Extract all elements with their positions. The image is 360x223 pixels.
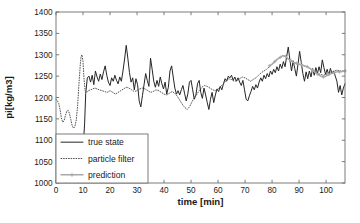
y-axis-title: pi[kg/m3] <box>3 76 14 119</box>
y-tick-label: 1350 <box>34 29 53 38</box>
x-tick-label: 30 <box>132 186 142 195</box>
x-tick-label: 10 <box>78 186 88 195</box>
x-tick-label: 60 <box>214 186 224 195</box>
y-tick-label: 1200 <box>34 94 53 103</box>
legend-label: prediction <box>88 170 125 180</box>
x-axis-title: time [min] <box>178 196 224 207</box>
x-tick-label: 50 <box>186 186 196 195</box>
figure-container: 0102030405060708090100 10001050110011501… <box>0 0 360 223</box>
y-tick-label: 1150 <box>35 115 53 124</box>
y-tick-label: 1000 <box>34 179 53 188</box>
x-tick-label: 80 <box>268 186 278 195</box>
y-tick-label: 1100 <box>35 136 53 145</box>
legend-label: particle filter <box>88 154 134 164</box>
chart-canvas: 0102030405060708090100 10001050110011501… <box>0 0 360 223</box>
legend-label: true state <box>88 137 124 147</box>
y-axis-tick-labels: 100010501100115012001250130013501400 <box>34 8 53 188</box>
x-axis-tick-labels: 0102030405060708090100 <box>54 186 334 195</box>
y-tick-label: 1400 <box>34 8 53 17</box>
x-tick-label: 0 <box>54 186 59 195</box>
x-tick-label: 90 <box>295 186 305 195</box>
y-tick-label: 1250 <box>34 72 53 81</box>
y-tick-label: 1300 <box>34 51 53 60</box>
y-tick-label: 1050 <box>34 158 53 167</box>
x-tick-label: 40 <box>159 186 169 195</box>
chart-legend: true stateparticle filterprediction <box>56 134 148 183</box>
x-tick-label: 70 <box>241 186 251 195</box>
x-tick-label: 100 <box>319 186 333 195</box>
x-tick-label: 20 <box>105 186 115 195</box>
